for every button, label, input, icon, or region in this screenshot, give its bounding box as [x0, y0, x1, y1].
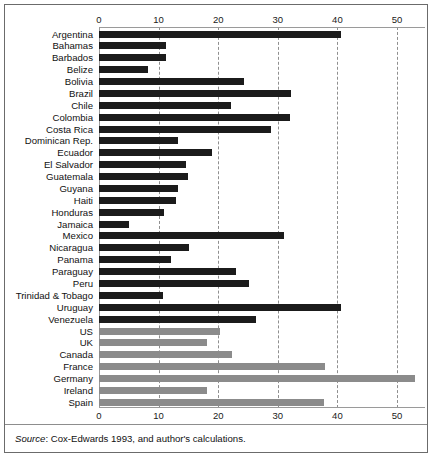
- bar-row: Spain: [5, 396, 429, 409]
- chart-plot-area: 01020304050 01020304050 ArgentinaBahamas…: [5, 5, 429, 423]
- bar-latin_america: [99, 197, 176, 204]
- bar-comparator: [99, 387, 207, 394]
- x-tick-label-top-50: 50: [384, 14, 410, 25]
- bar-latin_america: [99, 90, 291, 97]
- bar-comparator: [99, 399, 324, 406]
- x-tick-label-bot-10: 10: [146, 410, 172, 421]
- source-note: Source: Cox-Edwards 1993, and author's c…: [15, 433, 246, 444]
- bar-latin_america: [99, 149, 212, 156]
- footer-divider: [5, 424, 427, 425]
- x-tick-label-top-10: 10: [146, 14, 172, 25]
- bar-latin_america: [99, 161, 186, 168]
- bar-latin_america: [99, 137, 178, 144]
- bar-latin_america: [99, 31, 341, 38]
- bar-row-label: Spain: [5, 396, 93, 409]
- bar-latin_america: [99, 78, 244, 85]
- bar-latin_america: [99, 66, 148, 73]
- x-tick-label-top-0: 0: [86, 14, 112, 25]
- bar-latin_america: [99, 292, 163, 299]
- bar-latin_america: [99, 54, 166, 61]
- x-tick-label-top-40: 40: [324, 14, 350, 25]
- x-tick-label-top-20: 20: [205, 14, 231, 25]
- x-tick-label-bot-30: 30: [265, 410, 291, 421]
- bar-comparator: [99, 375, 415, 382]
- bar-comparator: [99, 351, 232, 358]
- bar-latin_america: [99, 209, 164, 216]
- bar-latin_america: [99, 221, 129, 228]
- x-tick-label-bot-50: 50: [384, 410, 410, 421]
- bar-latin_america: [99, 232, 284, 239]
- bar-latin_america: [99, 185, 178, 192]
- bar-comparator: [99, 328, 220, 335]
- bar-latin_america: [99, 280, 249, 287]
- x-tick-label-bot-20: 20: [205, 410, 231, 421]
- bar-latin_america: [99, 244, 189, 251]
- bar-latin_america: [99, 304, 341, 311]
- bar-latin_america: [99, 42, 166, 49]
- bar-latin_america: [99, 268, 236, 275]
- bar-latin_america: [99, 316, 256, 323]
- figure-panel: 01020304050 01020304050 ArgentinaBahamas…: [4, 4, 428, 453]
- bar-latin_america: [99, 256, 171, 263]
- bar-comparator: [99, 339, 207, 346]
- bar-comparator: [99, 363, 325, 370]
- bar-latin_america: [99, 173, 188, 180]
- bar-latin_america: [99, 126, 271, 133]
- bar-latin_america: [99, 114, 290, 121]
- source-label: Source: [15, 433, 45, 444]
- x-tick-label-top-30: 30: [265, 14, 291, 25]
- bar-latin_america: [99, 102, 231, 109]
- x-tick-label-bot-0: 0: [86, 410, 112, 421]
- x-tick-label-bot-40: 40: [324, 410, 350, 421]
- source-text: : Cox-Edwards 1993, and author's calcula…: [45, 433, 245, 444]
